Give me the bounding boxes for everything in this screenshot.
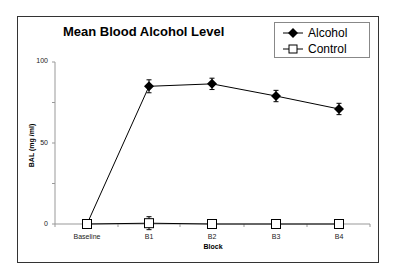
alcohol-diamond-marker [334,104,344,114]
alcohol-diamond-marker [271,91,281,101]
alcohol-line [87,84,339,224]
alcohol-diamond-marker [207,79,217,89]
alcohol-diamond-marker [144,81,154,91]
control-square-marker [272,220,281,229]
control-square-marker [145,219,154,228]
plot-area [0,0,397,279]
control-square-marker [208,220,217,229]
control-square-marker [83,220,92,229]
control-square-marker [335,220,344,229]
